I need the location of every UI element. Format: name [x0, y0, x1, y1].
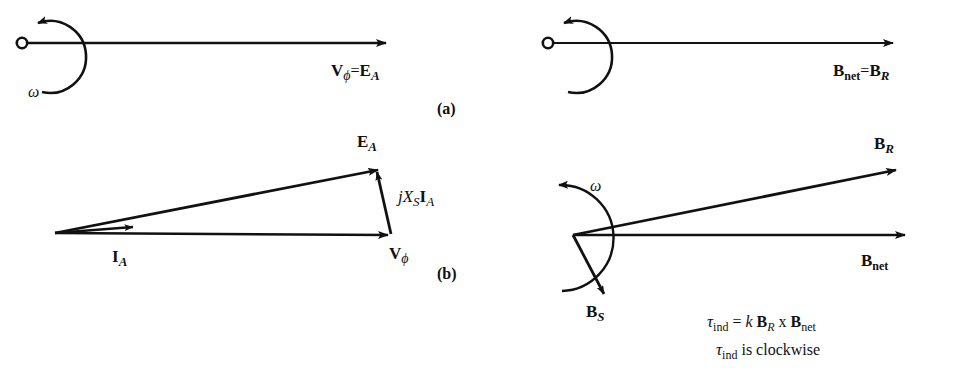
panel-b-right-group: [559, 170, 905, 294]
ia-subscript-in-jxsia: A: [426, 194, 434, 209]
vector-ea-b: [55, 170, 378, 233]
v-phi-equals-ea-label: Vϕ=EA: [331, 62, 380, 83]
k-constant: k: [745, 313, 752, 330]
ia-label-b: IA: [112, 248, 127, 268]
origin-pivot-circle-a-right: [543, 38, 553, 48]
vector-br-b: [573, 170, 896, 235]
phasor-and-magnetic-field-figure: ω Vϕ=EA Bnet=BR (a) EA jXSIA IA Vϕ (b) ω…: [0, 0, 971, 381]
jxsia-label: jXSIA: [398, 188, 434, 208]
ia-base-b: I: [112, 247, 119, 266]
panel-b-left-group: [55, 170, 391, 235]
br-subscript-eq: R: [767, 320, 774, 334]
bnet-subscript-b: net: [872, 259, 888, 273]
br-base-eq: B: [757, 313, 768, 330]
bnet-label-b: Bnet: [861, 252, 888, 272]
omega-rotation-arc-a-left: [38, 21, 86, 93]
v-phi-subscript: ϕ: [343, 68, 350, 83]
bs-subscript-b: S: [597, 309, 604, 324]
bs-label-b: BS: [586, 303, 605, 323]
omega-rotation-arc-a-right: [564, 21, 612, 93]
bnet-subscript: net: [844, 69, 860, 83]
clockwise-text: is clockwise: [741, 341, 820, 358]
torque-direction-statement: τind is clockwise: [716, 341, 820, 361]
bs-base-b: B: [586, 302, 597, 321]
omega-label-a-left: ω: [28, 84, 39, 100]
induced-torque-equation: τind = k BR x Bnet: [707, 313, 816, 333]
vector-bs-b: [573, 235, 604, 294]
bnet-base-b: B: [861, 251, 872, 270]
v-phi-label-b: Vϕ: [389, 245, 409, 266]
bnet-base-eq: B: [791, 313, 802, 330]
br-label-b: BR: [874, 135, 894, 155]
br-base: B: [869, 61, 880, 80]
v-phi-base: V: [331, 61, 343, 80]
jxs-prefix: jX: [398, 187, 413, 206]
ea-base: E: [360, 61, 371, 80]
ea-base-b: E: [357, 132, 368, 151]
omega-label-b-right: ω: [590, 178, 601, 194]
vector-drawing-canvas: [0, 0, 971, 381]
ia-subscript-b: A: [119, 254, 128, 269]
panel-a-letter: (a): [437, 101, 456, 117]
vector-jxsia-b: [377, 172, 391, 234]
bnet-subscript-eq: net: [801, 320, 816, 334]
origin-pivot-circle-a-left: [17, 38, 27, 48]
tau-subscript-1: ind: [713, 320, 728, 334]
ea-subscript: A: [371, 68, 380, 83]
omega-rotation-arc-b-right: [559, 185, 614, 291]
panel-b-letter: (b): [437, 266, 457, 282]
br-subscript-b: R: [885, 141, 894, 156]
cross-product-symbol: x: [779, 313, 787, 330]
bnet-equals-br-label: Bnet=BR: [833, 62, 889, 82]
tau-subscript-2: ind: [722, 348, 737, 362]
bnet-base: B: [833, 61, 844, 80]
v-phi-subscript-b: ϕ: [401, 251, 408, 266]
equals-sign-a-left: =: [351, 62, 360, 79]
ea-label-b: EA: [357, 133, 377, 153]
br-base-b: B: [874, 134, 885, 153]
ea-subscript-b: A: [368, 139, 377, 154]
vector-v-phi-b: [55, 233, 388, 235]
v-phi-base-b: V: [389, 244, 401, 263]
vector-ia-b: [55, 227, 133, 233]
br-subscript: R: [881, 68, 890, 83]
